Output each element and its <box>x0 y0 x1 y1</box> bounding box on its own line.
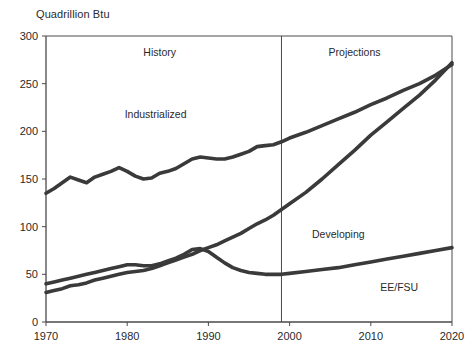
x-axis-tick-label: 1970 <box>22 330 70 342</box>
x-axis-tick-label: 2010 <box>347 330 395 342</box>
x-axis-tick-label: 2000 <box>266 330 314 342</box>
y-axis-tick-label: 150 <box>4 173 38 185</box>
y-axis-tick-label: 300 <box>4 30 38 42</box>
energy-consumption-chart: Quadrillion Btu 050100150200250300197019… <box>0 0 475 357</box>
plot-canvas <box>0 0 475 357</box>
x-axis-tick-label: 2020 <box>428 330 475 342</box>
series-line-industrialized <box>46 65 452 194</box>
y-axis-tick-label: 0 <box>4 316 38 328</box>
chart-annotation-projections: Projections <box>329 46 381 58</box>
y-axis-tick-label: 200 <box>4 125 38 137</box>
x-axis-tick-label: 1990 <box>184 330 232 342</box>
chart-annotation-ee-fsu: EE/FSU <box>380 281 418 293</box>
y-axis-tick-label: 100 <box>4 221 38 233</box>
chart-annotation-industrialized: Industrialized <box>125 108 187 120</box>
chart-annotation-history: History <box>143 46 176 58</box>
y-axis-tick-label: 50 <box>4 268 38 280</box>
x-axis-tick-label: 1980 <box>103 330 151 342</box>
y-axis-tick-label: 250 <box>4 78 38 90</box>
chart-annotation-developing: Developing <box>312 228 365 240</box>
